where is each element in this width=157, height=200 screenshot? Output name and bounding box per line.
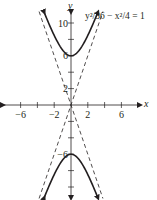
x-tick-label: −6	[15, 109, 26, 120]
y-tick-label: −6	[57, 149, 68, 160]
x-tick-label: 2	[85, 109, 90, 120]
x-tick-label: 6	[119, 109, 124, 120]
x-axis-label: x	[143, 98, 149, 109]
y-tick-label: 10	[58, 18, 68, 29]
axes: −6−2261062−6	[3, 12, 140, 198]
equation-label: y²/36 − x²/4 = 1	[85, 11, 145, 21]
x-tick-label: −2	[49, 109, 60, 120]
hyperbola-graph: −6−2261062−6 y x y²/36 − x²/4 = 1	[0, 0, 157, 200]
y-axis-label: y	[67, 0, 73, 11]
labels: y x y²/36 − x²/4 = 1	[67, 0, 149, 109]
